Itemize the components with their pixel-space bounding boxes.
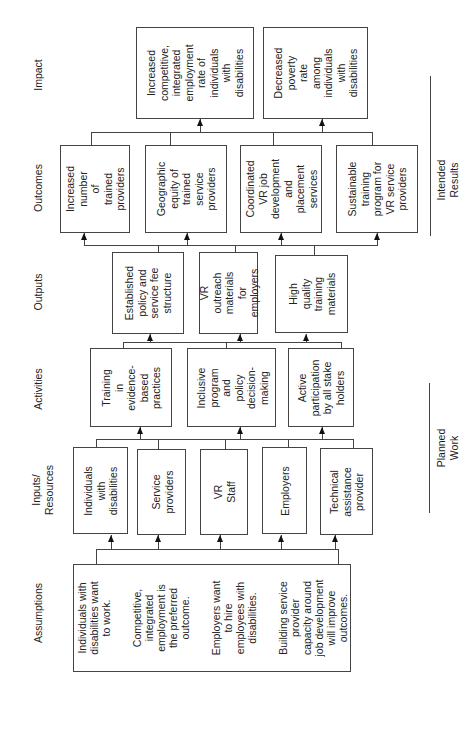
activity-text: Inclusive program and policy decision- m… <box>194 366 269 408</box>
side-label-intended-results: Intended Results <box>435 160 460 201</box>
impact-text: Decreased poverty rate among individuals… <box>272 47 360 99</box>
header-assumptions: Assumptions <box>32 583 45 643</box>
output-text: VR outreach materials for employers <box>197 269 260 317</box>
arrow-up-icon <box>319 119 325 126</box>
assumptions-text: Individuals with disabilities want to wo… <box>64 570 361 666</box>
outcome-text: Sustainable training program for VR serv… <box>346 162 409 217</box>
intended-results-divider <box>430 76 431 236</box>
outcome-text: Coordinated VR job development and place… <box>244 159 319 219</box>
output-text: High quality training materials <box>287 273 337 316</box>
assumptions-box: Individuals with disabilities want to wo… <box>73 564 351 672</box>
input-box-vr-staff: VR Staff <box>200 449 248 535</box>
arrow-up-icon <box>278 233 284 240</box>
connector <box>314 245 315 255</box>
arrow-up-icon <box>81 233 87 240</box>
input-box-employers: Employers <box>262 447 307 534</box>
arrow-up-icon <box>278 535 284 542</box>
output-box-policy-fee: Established policy and service fee struc… <box>112 252 184 334</box>
outcome-text: Geographic equity of trained service pro… <box>155 162 218 216</box>
arrow-up-icon <box>147 334 153 341</box>
input-text: Service providers <box>149 470 174 513</box>
activity-box-inclusive-program: Inclusive program and policy decision- m… <box>187 348 276 427</box>
arrow-up-icon <box>319 427 325 434</box>
header-activities: Activities <box>32 368 45 409</box>
outcome-box-coordinated-vr: Coordinated VR job development and place… <box>240 145 322 233</box>
assumption-2: Competitive, integrated employment is th… <box>131 570 191 666</box>
connector <box>158 245 159 252</box>
connector <box>96 549 339 550</box>
header-inputs-resources: Inputs/ Resources <box>30 465 55 515</box>
connector <box>158 439 159 449</box>
connector <box>91 132 92 145</box>
arrow-up-icon <box>184 233 190 240</box>
activity-text: Active participation by all stake holder… <box>296 359 346 416</box>
connector <box>123 342 342 343</box>
arrow-up-icon <box>197 119 203 126</box>
arrow-up-icon <box>217 535 223 542</box>
outcome-box-trained-providers: Increased number of trained providers <box>60 145 130 233</box>
output-text: Established policy and service fee struc… <box>123 266 173 320</box>
outcome-box-geographic-equity: Geographic equity of trained service pro… <box>145 145 227 233</box>
assumption-3: Employers want to hire employees with di… <box>210 570 258 666</box>
activity-text: Training in evidence- based practices <box>100 365 163 411</box>
arrow-up-icon <box>303 334 309 341</box>
input-text: Technical assistance provider <box>328 467 366 517</box>
connector <box>273 132 274 145</box>
arrow-up-icon <box>237 334 243 341</box>
planned-work-divider <box>429 383 430 513</box>
input-box-individuals: Individuals with disabilities <box>73 447 128 534</box>
arrow-up-icon <box>237 427 243 434</box>
connector <box>353 439 354 448</box>
connector <box>288 439 289 447</box>
arrow-up-icon <box>374 233 380 240</box>
impact-text: Increased competitive, integrated employ… <box>145 44 245 101</box>
input-text: VR Staff <box>212 481 237 504</box>
outcome-box-sustainable-training: Sustainable training program for VR serv… <box>336 145 418 233</box>
activity-box-training: Training in evidence- based practices <box>90 348 172 427</box>
activity-box-active-participation: Active participation by all stake holder… <box>288 348 354 427</box>
input-box-service-providers: Service providers <box>137 449 186 535</box>
connector <box>338 549 339 564</box>
connector <box>170 132 171 145</box>
input-text: Employers <box>278 466 291 516</box>
impact-box-poverty: Decreased poverty rate among individuals… <box>263 27 368 119</box>
arrow-up-icon <box>155 535 161 542</box>
connector <box>96 549 97 564</box>
header-impact: Impact <box>32 59 45 91</box>
assumption-4: Building service provider capacity aroun… <box>277 570 349 666</box>
output-box-training-materials: High quality training materials <box>275 255 348 333</box>
input-text: Individuals with disabilities <box>82 466 120 516</box>
assumption-1: Individuals with disabilities want to wo… <box>76 570 112 666</box>
arrow-up-icon <box>332 535 338 542</box>
arrow-up-icon <box>137 427 143 434</box>
connector <box>235 245 236 252</box>
side-label-planned-work: Planned Work <box>435 429 460 468</box>
header-outcomes: Outcomes <box>32 164 45 212</box>
arrow-up-icon <box>108 535 114 542</box>
header-outputs: Outputs <box>32 274 45 311</box>
outcome-text: Increased number of trained providers <box>64 166 127 212</box>
impact-box-employment: Increased competitive, integrated employ… <box>136 27 254 119</box>
connector <box>91 132 373 133</box>
connector <box>84 245 378 246</box>
input-box-technical-assistance: Technical assistance provider <box>320 448 373 535</box>
connector <box>96 439 97 447</box>
connector <box>225 439 226 449</box>
connector <box>372 132 373 145</box>
output-box-vr-outreach: VR outreach materials for employers <box>199 252 258 334</box>
